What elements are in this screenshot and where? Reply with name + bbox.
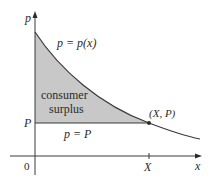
y-axis-label: p <box>24 11 31 25</box>
quantity-tick-label: X <box>143 160 152 174</box>
equilibrium-label: (X, P) <box>149 107 176 120</box>
price-line-label: p = P <box>63 127 92 141</box>
region-label-line2: surplus <box>49 102 84 116</box>
price-tick-label: P <box>23 116 32 130</box>
equilibrium-point <box>147 121 151 125</box>
origin-label: 0 <box>24 160 30 172</box>
diagram-svg: p x 0 p = p(x) p = P P X (X, P) consumer… <box>0 0 211 186</box>
demand-curve-label: p = p(x) <box>56 36 96 50</box>
consumer-surplus-diagram: p x 0 p = p(x) p = P P X (X, P) consumer… <box>0 0 211 186</box>
region-label-line1: consumer <box>41 88 88 102</box>
y-axis-arrow-icon <box>33 11 38 18</box>
x-axis-label: x <box>194 159 201 173</box>
x-axis-arrow-icon <box>195 154 202 159</box>
